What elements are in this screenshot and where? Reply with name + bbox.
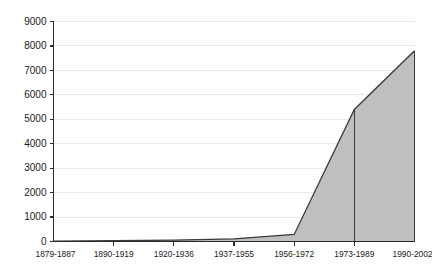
x-axis-ticks-group: 1879-18871890-19191920-19361937-19551956… xyxy=(35,242,432,259)
data-area-group xyxy=(54,51,415,242)
x-axis-tick-label: 1879-1887 xyxy=(35,249,75,259)
x-axis-tick-label: 1920-1936 xyxy=(154,249,194,259)
y-axis-tick-label: 3000 xyxy=(24,162,47,173)
y-axis-tick-label: 1000 xyxy=(24,211,47,222)
y-axis-tick-label: 0 xyxy=(41,236,47,247)
y-axis-tick-label: 2000 xyxy=(24,187,47,198)
x-axis-tick-label: 1990-2002 xyxy=(392,249,432,259)
x-axis-tick-label: 1890-1919 xyxy=(94,249,134,259)
y-axis-tick-label: 4000 xyxy=(24,138,47,149)
x-axis-tick-label: 1937-1955 xyxy=(214,249,254,259)
y-axis-tick-label: 5000 xyxy=(24,113,47,124)
x-axis-tick-label: 1973-1989 xyxy=(334,249,374,259)
area-chart: 0100020003000400050006000700080009000 18… xyxy=(0,0,446,275)
x-axis-tick-label: 1956-1972 xyxy=(274,249,314,259)
y-axis-tick-label: 7000 xyxy=(24,65,47,76)
y-axis-tick-label: 8000 xyxy=(24,40,47,51)
area-series-fill xyxy=(54,51,415,242)
y-axis-tick-label: 9000 xyxy=(24,16,47,27)
chart-canvas: 0100020003000400050006000700080009000 18… xyxy=(0,0,446,275)
y-axis-ticks-group: 0100020003000400050006000700080009000 xyxy=(24,16,53,247)
y-axis-tick-label: 6000 xyxy=(24,89,47,100)
